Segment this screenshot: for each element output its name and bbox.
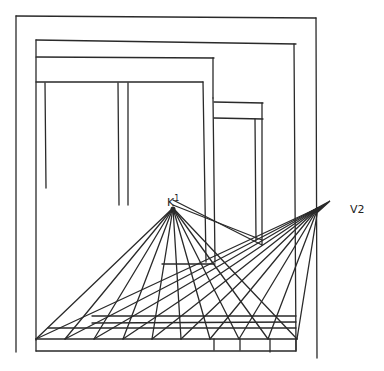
fan-line (94, 208, 173, 339)
left-door (45, 83, 128, 205)
v2-marker-icon (306, 201, 330, 214)
fan-line (181, 208, 318, 339)
v1-label: K1 (167, 194, 179, 209)
fan-line (65, 208, 173, 339)
v2-fan-lines (36, 208, 318, 339)
fan-line (123, 208, 173, 339)
v1-fan-lines (36, 208, 297, 339)
v1-superscript: 1 (174, 194, 179, 203)
perspective-diagram (0, 0, 384, 371)
inner-frame (36, 40, 296, 350)
outer-frame (16, 16, 317, 358)
v1-connectors (162, 200, 262, 264)
v2-label: V2 (350, 203, 365, 216)
fan-line (210, 208, 318, 339)
fan-line (152, 208, 173, 339)
fan-line (297, 208, 318, 339)
